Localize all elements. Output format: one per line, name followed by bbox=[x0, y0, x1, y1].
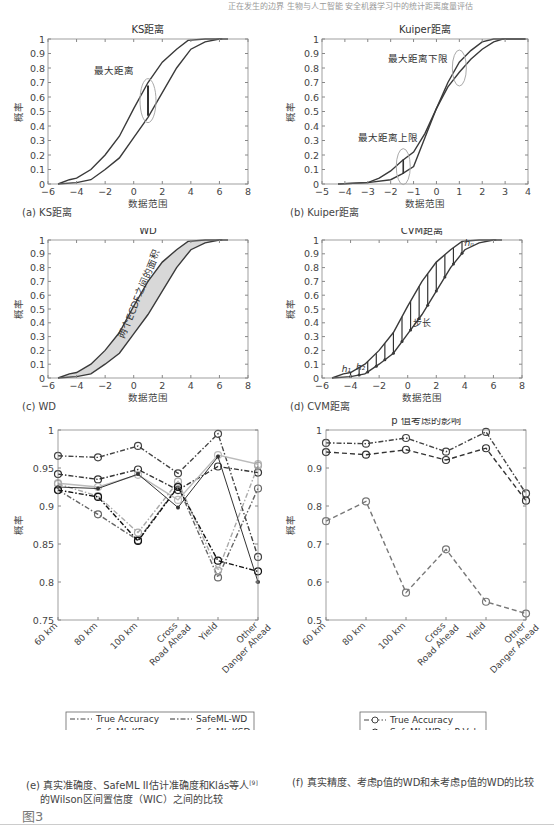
x-tick-label: 0 bbox=[131, 186, 137, 197]
annotation-label: 最大距离 bbox=[94, 65, 134, 76]
legend: True AccuracySafeML-WD + P-ValueSafeML-W… bbox=[360, 712, 488, 730]
y-axis-label: 概率 bbox=[13, 102, 24, 122]
y-axis-label: 概率 bbox=[13, 515, 24, 535]
x-tick-label: 80 km bbox=[72, 620, 99, 647]
x-axis-label: 数据范围 bbox=[405, 198, 445, 209]
figure-label: 图3 bbox=[22, 806, 43, 825]
running-header: 正在发生的边界 生物与人工智能 安全机器学习中的统计距离度量评估 bbox=[228, 0, 473, 11]
y-tick-label: 0.8 bbox=[30, 63, 45, 74]
y-tick-label: 0.4 bbox=[304, 121, 319, 132]
y-axis-label: 概率 bbox=[285, 102, 296, 122]
x-tick-label: 2 bbox=[479, 186, 485, 197]
plot-frame bbox=[326, 430, 526, 620]
series-safeml-wd-p-value bbox=[323, 445, 530, 504]
x-tick-label: 80 km bbox=[340, 620, 367, 647]
y-tick-label: 0.9 bbox=[304, 248, 319, 259]
area-between-ecdfs bbox=[58, 240, 228, 378]
y-tick-label: 1 bbox=[48, 425, 54, 436]
chart-title: KS距离 bbox=[132, 23, 165, 35]
y-tick-label: 0.6 bbox=[307, 577, 322, 588]
y-tick-label: 0.5 bbox=[304, 304, 319, 315]
annotation-label: h₂ bbox=[356, 362, 366, 372]
y-tick-label: 0.8 bbox=[307, 501, 322, 512]
x-tick-label: 100 km bbox=[376, 620, 407, 651]
ecdf-line bbox=[58, 39, 222, 184]
y-tick-label: 0.8 bbox=[39, 577, 54, 588]
caption-d: (d) CVM距离 bbox=[290, 400, 350, 414]
series-safeml-wd bbox=[323, 498, 530, 617]
chart-title: CVM距离 bbox=[401, 228, 443, 236]
x-tick-label: 0 bbox=[405, 380, 411, 391]
series-true-accuracy bbox=[323, 428, 530, 497]
x-tick-label: −4 bbox=[70, 186, 84, 197]
y-tick-label: 0.1 bbox=[30, 164, 45, 175]
caption-e-line2: 的Wilson区间置信度（WIC）之间的比较 bbox=[26, 793, 258, 807]
x-tick-label: −6 bbox=[41, 186, 55, 197]
caption-e: (e) 真实准确度、SafeML II估计准确度和Klás等人[9] 的Wils… bbox=[26, 776, 258, 807]
x-tick-label: 6 bbox=[216, 186, 222, 197]
chart-kuiper-distance: Kuiper距离00.10.20.30.40.50.60.70.80.91−5−… bbox=[282, 22, 550, 212]
y-tick-label: 0.95 bbox=[33, 463, 54, 474]
x-tick-label: −2 bbox=[98, 380, 112, 391]
x-tick-label: Yield bbox=[196, 620, 219, 643]
y-tick-label: 0.9 bbox=[39, 501, 54, 512]
y-tick-label: 0.4 bbox=[304, 317, 319, 328]
y-tick-label: 0.7 bbox=[30, 77, 45, 88]
chart-pvalue-effect: p 值考虑的影响0.50.60.70.80.9160 km80 km100 km… bbox=[282, 418, 550, 730]
y-tick-label: 1 bbox=[39, 235, 45, 246]
x-tick-label: −2 bbox=[98, 186, 112, 197]
x-tick-label: 6 bbox=[490, 380, 496, 391]
legend-label: SafeML-WD + P-Value bbox=[390, 727, 488, 730]
x-tick-label: OtherDanger Ahead bbox=[212, 615, 273, 676]
x-tick-label: 100 km bbox=[108, 620, 139, 651]
y-tick-label: 0.9 bbox=[30, 48, 45, 59]
y-tick-label: 0.7 bbox=[30, 276, 45, 287]
divider bbox=[0, 824, 554, 825]
y-tick-label: 0.1 bbox=[304, 359, 319, 370]
y-tick-label: 1 bbox=[316, 425, 322, 436]
y-tick-label: 0.9 bbox=[307, 463, 322, 474]
x-tick-label: −4 bbox=[344, 380, 358, 391]
x-tick-label: 2 bbox=[433, 380, 439, 391]
x-tick-label: 2 bbox=[159, 186, 165, 197]
x-tick-label: −6 bbox=[315, 380, 329, 391]
plot-frame bbox=[58, 430, 258, 620]
y-tick-label: 0.9 bbox=[304, 48, 319, 59]
annotation-label: h₁ bbox=[342, 364, 352, 374]
legend-label: True Accuracy bbox=[389, 715, 454, 725]
y-tick-label: 0.8 bbox=[30, 262, 45, 273]
x-tick-label: −6 bbox=[41, 380, 55, 391]
y-tick-label: 0.6 bbox=[304, 290, 319, 301]
annotation-label: hₙ bbox=[464, 238, 474, 248]
x-tick-label: OtherDanger Ahead bbox=[480, 615, 541, 676]
chart-accuracy-comparison: 0.750.80.850.90.95160 km80 km100 kmCross… bbox=[10, 418, 274, 730]
y-tick-label: 0.6 bbox=[304, 92, 319, 103]
y-tick-label: 1 bbox=[313, 34, 319, 45]
legend-label: True Accuracy bbox=[95, 714, 160, 724]
x-tick-label: 0 bbox=[131, 380, 137, 391]
chart-title: p 值考虑的影响 bbox=[391, 418, 461, 426]
x-tick-label: 1 bbox=[456, 186, 462, 197]
series-safeml-ksd bbox=[55, 483, 262, 581]
y-tick-label: 0.7 bbox=[304, 276, 319, 287]
y-tick-label: 0.3 bbox=[304, 135, 319, 146]
y-tick-label: 0.2 bbox=[30, 150, 45, 161]
y-axis-label: 概率 bbox=[285, 515, 296, 535]
x-tick-label: −2 bbox=[372, 380, 386, 391]
x-tick-label: 3 bbox=[502, 186, 508, 197]
x-tick-label: CrossRoad Ahead bbox=[408, 615, 461, 668]
annotation-label: 步长 bbox=[413, 317, 431, 328]
caption-a: (a) KS距离 bbox=[22, 206, 72, 220]
caption-f: (f) 真实精度、考虑p值的WD和未考虑p值的WD的比较 bbox=[292, 776, 534, 790]
x-tick-label: 8 bbox=[519, 380, 525, 391]
y-tick-label: 0.9 bbox=[30, 248, 45, 259]
caption-b: (b) Kuiper距离 bbox=[290, 206, 359, 220]
caption-c: (c) WD bbox=[22, 400, 56, 414]
y-tick-label: 0.7 bbox=[304, 77, 319, 88]
y-tick-label: 1 bbox=[313, 235, 319, 246]
y-tick-label: 0.85 bbox=[33, 539, 54, 550]
series-wic-lower-band bbox=[56, 455, 260, 584]
y-tick-label: 0.8 bbox=[304, 63, 319, 74]
y-tick-label: 0.3 bbox=[30, 135, 45, 146]
caption-e-ref: [9] bbox=[249, 779, 258, 786]
